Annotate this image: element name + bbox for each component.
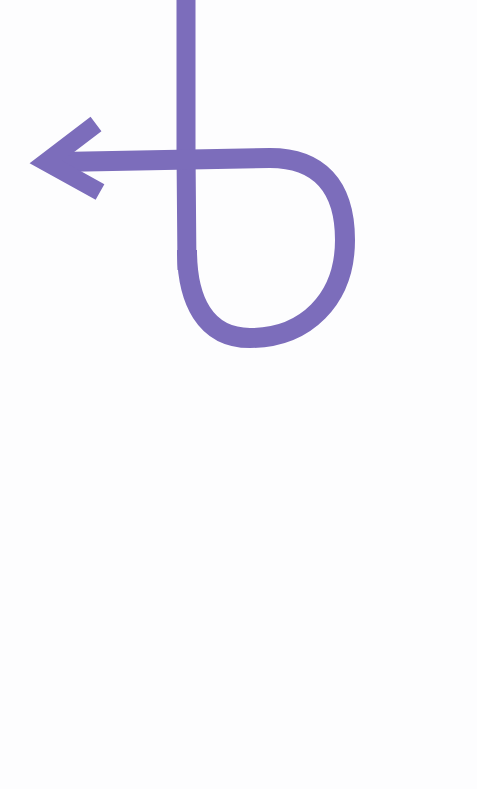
illustration-canvas	[0, 0, 477, 789]
loop-arrow-left-icon	[0, 0, 477, 789]
vertical-stroke	[186, 0, 187, 270]
